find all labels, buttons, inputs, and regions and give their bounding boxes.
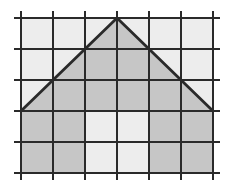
figure-root: House shape on square grid A pentagonal … <box>0 0 234 193</box>
house-on-grid-diagram: House shape on square grid A pentagonal … <box>0 0 234 193</box>
